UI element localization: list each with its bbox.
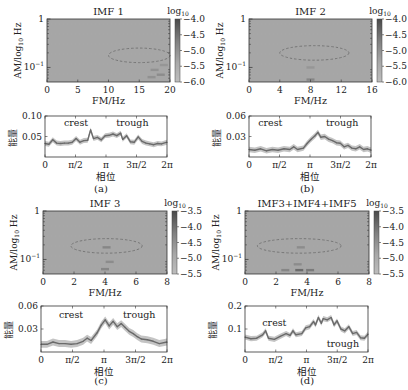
energy-point	[340, 328, 341, 329]
colorbar-tick-label: −5.0	[382, 253, 404, 263]
x-axis-label: FM/Hz	[294, 95, 327, 106]
energy-point	[307, 143, 308, 144]
energy-point	[305, 327, 306, 328]
colorbar-tick-label: −5.5	[382, 269, 404, 279]
energy-point	[274, 339, 275, 340]
y-axis-label: 能量	[7, 129, 18, 147]
heatmap-background	[249, 19, 372, 82]
x-tick-label: 2π	[161, 160, 173, 170]
heatmap-title: IMF 1	[93, 6, 124, 17]
heatmap-hotspot	[294, 263, 302, 265]
energy-point	[76, 343, 77, 344]
x-tick-label: 16	[366, 85, 378, 95]
energy-point	[280, 336, 281, 337]
x-axis-label: FM/Hz	[291, 287, 324, 298]
heatmap-title: IMF 2	[295, 6, 326, 17]
x-tick-label: 3π/2	[330, 160, 350, 170]
energy-point	[138, 136, 139, 137]
energy-point	[91, 340, 92, 341]
colorbar-tick-label: −5.0	[180, 253, 202, 263]
colorbar-tick-label: −3.5	[180, 206, 202, 216]
y-tick-label: 10−1	[20, 252, 40, 264]
energy-point	[340, 143, 341, 144]
x-tick-label: π/2	[272, 160, 287, 170]
x-tick-label: 4	[277, 85, 283, 95]
x-tick-label: 10	[103, 85, 115, 95]
energy-point	[268, 338, 269, 339]
energy-point	[153, 341, 154, 342]
panel-label-a: (a)	[94, 183, 108, 194]
x-tick-label: 5	[75, 85, 81, 95]
figure: IMF 105101520FM/Hz110−1AM/log10 Hzlog10−…	[0, 0, 408, 390]
x-tick-label: 0	[246, 85, 252, 95]
heatmap-hotspot	[157, 74, 165, 76]
y-axis-label: AM/log10 Hz	[9, 214, 20, 271]
y-axis-label: 能量	[3, 321, 14, 339]
energy-point	[352, 333, 353, 334]
energy-point	[141, 338, 142, 339]
colorbar-tick-label: −6.0	[183, 77, 205, 87]
energy-point	[289, 335, 290, 336]
energy-point	[137, 336, 138, 337]
panel-label-b: (b)	[300, 183, 314, 194]
energy-point	[356, 332, 357, 333]
energy-point	[113, 321, 114, 322]
colorbar-tick-label: −4.5	[382, 238, 404, 248]
x-tick-label: 6	[133, 277, 139, 287]
heatmap-panel-d: IMF3+IMF4+IMF502468FM/Hz110−1AM/log10 Hz…	[211, 198, 404, 298]
energy-point	[293, 146, 294, 147]
heatmap-hotspot	[106, 261, 114, 263]
energy-point	[297, 149, 298, 150]
x-tick-label: π/2	[65, 355, 80, 365]
energy-point	[68, 142, 69, 143]
energy-point	[360, 337, 361, 338]
line-panel-d: cresttrough0π/2π3π/22π相位0.10.2能量	[207, 301, 374, 377]
colorbar-tick-label: −5.5	[180, 269, 202, 279]
energy-point	[46, 344, 47, 345]
colorbar-tick-label: −5.0	[385, 46, 407, 56]
energy-point	[105, 135, 106, 136]
energy-point	[332, 140, 333, 141]
energy-point	[75, 138, 76, 139]
x-tick-label: 0	[38, 355, 44, 365]
energy-point	[87, 140, 88, 141]
energy-point	[292, 330, 293, 331]
x-tick-label: π	[103, 160, 109, 170]
y-axis-label: AM/log10 Hz	[13, 22, 24, 79]
y-tick-label: 1	[34, 206, 40, 216]
heatmap-title: IMF 3	[90, 198, 121, 209]
energy-point	[289, 149, 290, 150]
y-tick-label: 10−1	[24, 60, 44, 72]
energy-point	[278, 150, 279, 151]
x-tick-label: 8	[366, 277, 372, 287]
annotation-crest: crest	[64, 117, 88, 128]
energy-point	[364, 338, 365, 339]
y-tick-label: 0.06	[226, 111, 246, 121]
y-tick-label: 0.2	[228, 301, 242, 311]
energy-point	[313, 321, 314, 322]
annotation-trough: trough	[123, 309, 155, 320]
energy-point	[272, 149, 273, 150]
energy-point	[321, 323, 322, 324]
energy-point	[324, 136, 325, 137]
y-axis-label: AM/log10 Hz	[211, 214, 222, 271]
x-tick-label: 4	[304, 277, 310, 287]
heatmap-hotspot	[101, 268, 109, 270]
y-tick-label: 0.1	[228, 324, 242, 334]
x-tick-label: π	[304, 355, 310, 365]
energy-point	[141, 141, 142, 142]
energy-point	[109, 325, 110, 326]
colorbar-tick-label: −6.0	[385, 77, 407, 87]
colorbar-tick-label: −4.0	[183, 14, 205, 24]
y-tick-label: 0.06	[18, 301, 38, 311]
energy-point	[56, 142, 57, 143]
energy-point	[70, 344, 71, 345]
energy-point	[254, 150, 255, 151]
heatmap-hotspot	[148, 76, 156, 78]
energy-point	[72, 142, 73, 143]
energy-point	[344, 146, 345, 147]
y-tick-label: 0.03	[226, 132, 246, 142]
energy-point	[161, 143, 162, 144]
x-tick-label: 8	[308, 85, 314, 95]
x-tick-label: 20	[164, 85, 176, 95]
